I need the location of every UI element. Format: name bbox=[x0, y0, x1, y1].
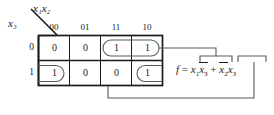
diagram-canvas bbox=[0, 0, 274, 115]
equation-term1: x1x3 bbox=[191, 63, 208, 75]
cell-r1-c10: 1 bbox=[132, 68, 163, 78]
equation-lhs: f bbox=[176, 63, 179, 75]
equation: f = x1x3 + x2x3 bbox=[176, 62, 236, 78]
connector-term2-stem bbox=[0, 88, 22, 95]
equation-equals: = bbox=[182, 63, 188, 75]
axis-label-row: x₃ bbox=[8, 18, 17, 29]
axis-label-columns: x₁x₂ bbox=[33, 3, 50, 14]
connector-term1 bbox=[159, 48, 216, 56]
cell-r1-c01: 0 bbox=[70, 68, 101, 78]
row-header-0: 0 bbox=[20, 43, 34, 53]
column-header-10: 10 bbox=[134, 23, 160, 32]
equation-term2: x2x3 bbox=[219, 63, 236, 75]
karnaugh-map-figure: x₁x₂ x₃ 00 01 11 10 0 1 0 0 1 1 1 0 0 1 … bbox=[0, 0, 274, 115]
bracket-term2 bbox=[238, 56, 266, 62]
cell-r0-c01: 0 bbox=[70, 43, 101, 53]
cell-r1-c00: 1 bbox=[39, 68, 70, 78]
cell-r0-c10: 1 bbox=[132, 43, 163, 53]
equation-plus: + bbox=[210, 63, 216, 75]
cell-r0-c00: 0 bbox=[39, 43, 70, 53]
row-header-1: 1 bbox=[20, 68, 34, 78]
column-header-11: 11 bbox=[103, 23, 129, 32]
cell-r1-c11: 0 bbox=[101, 68, 132, 78]
cell-r0-c11: 1 bbox=[101, 43, 132, 53]
column-header-01: 01 bbox=[72, 23, 98, 32]
column-header-00: 00 bbox=[41, 23, 67, 32]
